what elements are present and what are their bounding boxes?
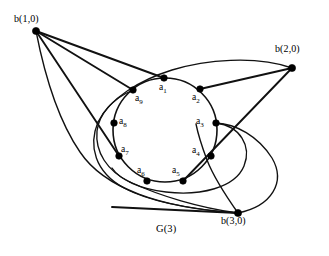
vertex-a8[interactable] (111, 120, 118, 127)
a4-subscript: 4 (196, 150, 200, 158)
vertex-label-b3: b(3,0) (221, 216, 246, 226)
vertex-a1[interactable] (161, 75, 168, 82)
vertex-label-b1: b(1,0) (14, 14, 39, 24)
vertex-label-a3: a3 (196, 117, 204, 129)
vertex-label-a9: a9 (135, 94, 143, 106)
a7-subscript: 7 (125, 149, 129, 157)
vertex-a5[interactable] (180, 178, 187, 185)
a9-subscript: 9 (139, 98, 143, 106)
vertex-label-a6: a6 (137, 166, 145, 178)
vertex-label-a7: a7 (121, 145, 129, 157)
vertex-label-a2: a2 (192, 93, 200, 105)
a5-subscript: 5 (176, 170, 180, 178)
figure-canvas: b(1,0) b(2,0) b(3,0) a1 a2 a3 a4 a5 a6 a… (0, 0, 329, 256)
edge-b1-a7 (36, 31, 119, 156)
a2-subscript: 2 (196, 97, 200, 105)
vertex-label-a1: a1 (159, 83, 167, 95)
vertex-label-a8: a8 (119, 117, 127, 129)
a1-subscript: 1 (163, 87, 167, 95)
vertex-a2[interactable] (197, 86, 204, 93)
vertex-a6[interactable] (144, 178, 151, 185)
vertex-b2[interactable] (288, 64, 295, 71)
vertex-label-b2: b(2,0) (275, 44, 300, 54)
vertex-label-a4: a4 (192, 146, 200, 158)
graph-drawing (0, 0, 329, 256)
vertex-b1[interactable] (32, 27, 39, 34)
edge-b2-a2 (200, 68, 292, 89)
a3-subscript: 3 (200, 121, 204, 129)
vertex-label-a5: a5 (172, 166, 180, 178)
figure-caption: G(3) (156, 224, 176, 235)
a8-subscript: 8 (123, 121, 127, 129)
vertex-a4[interactable] (208, 153, 215, 160)
a6-subscript: 6 (141, 170, 145, 178)
vertex-a3[interactable] (213, 120, 220, 127)
